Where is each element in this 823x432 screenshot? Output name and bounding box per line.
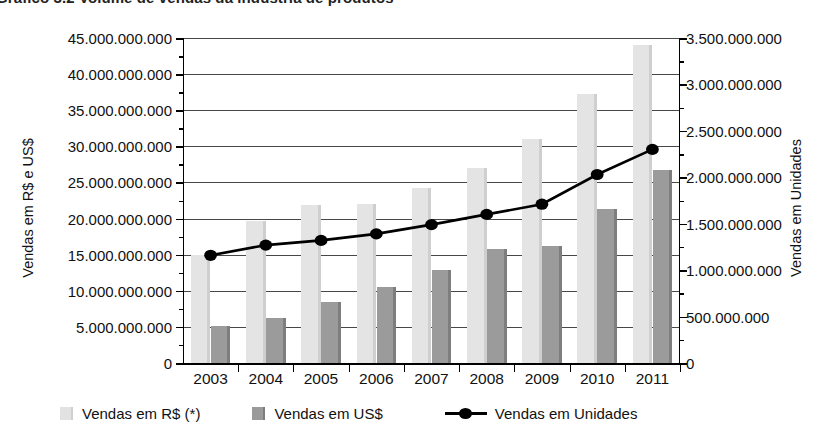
tick-mark (680, 84, 687, 86)
line-marker (591, 169, 604, 180)
left-tick-label: 10.000.000.000 (68, 283, 172, 298)
line-marker (536, 199, 549, 210)
tick-mark (176, 74, 183, 76)
tick-mark (176, 255, 183, 257)
tick-mark (680, 247, 684, 249)
category-label: 2005 (293, 370, 348, 388)
line-marker (315, 235, 328, 246)
tick-mark (680, 177, 687, 179)
chart-legend: Vendas em R$ (*)Vendas em US$Vendas em U… (60, 399, 760, 427)
right-tick-label: 3.500.000.000 (686, 31, 782, 46)
tick-mark (176, 327, 183, 329)
line-marker (646, 144, 659, 155)
tick-mark (680, 38, 687, 40)
tick-mark (680, 270, 687, 272)
left-tick-label: 0 (164, 356, 172, 371)
tick-mark (176, 146, 183, 148)
category-separator (680, 363, 681, 372)
legend-item[interactable]: Vendas em Unidades (445, 405, 638, 422)
right-tick-label: 500.000.000 (686, 309, 769, 324)
tick-mark (680, 154, 684, 156)
tick-mark (680, 340, 684, 342)
line-marker (259, 240, 272, 251)
category-label: 2009 (514, 370, 569, 388)
right-axis-tick-labels: 3.500.000.0003.000.000.0002.500.000.0002… (686, 0, 816, 432)
tick-mark (680, 224, 687, 226)
line-series-layer (183, 38, 680, 363)
left-tick-label: 5.000.000.000 (76, 319, 172, 334)
legend-label: Vendas em Unidades (495, 405, 638, 422)
x-axis-line (183, 363, 680, 365)
left-tick-label: 20.000.000.000 (68, 211, 172, 226)
right-tick-label: 2.000.000.000 (686, 170, 782, 185)
legend-line-marker-icon (445, 407, 487, 420)
tick-mark (680, 131, 687, 133)
tick-mark (680, 61, 684, 63)
tick-mark (680, 363, 687, 365)
category-label: 2004 (238, 370, 293, 388)
legend-label: Vendas em R$ (*) (82, 405, 200, 422)
right-tick-label: 1.000.000.000 (686, 263, 782, 278)
legend-swatch-icon (60, 407, 73, 420)
line-vendas-unidades (211, 149, 653, 255)
tick-mark (680, 201, 684, 203)
legend-line-dot (459, 408, 472, 419)
left-tick-label: 45.000.000.000 (68, 31, 172, 46)
left-tick-label: 40.000.000.000 (68, 67, 172, 82)
right-tick-label: 2.500.000.000 (686, 123, 782, 138)
tick-mark (176, 182, 183, 184)
right-tick-label: 1.500.000.000 (686, 216, 782, 231)
category-label: 2010 (570, 370, 625, 388)
line-marker (370, 228, 383, 239)
plot-area: 200320042005200620072008200920102011 (183, 38, 680, 363)
tick-mark (680, 317, 687, 319)
left-axis-tick-labels: 45.000.000.00040.000.000.00035.000.000.0… (0, 0, 172, 432)
tick-mark (176, 219, 183, 221)
legend-item[interactable]: Vendas em US$ (252, 405, 382, 422)
right-tick-label: 3.000.000.000 (686, 77, 782, 92)
legend-label: Vendas em US$ (274, 405, 382, 422)
left-tick-label: 15.000.000.000 (68, 247, 172, 262)
tick-mark (680, 293, 684, 295)
legend-swatch-icon (252, 407, 265, 420)
right-tick-label: 0 (686, 356, 694, 371)
category-label: 2011 (625, 370, 680, 388)
legend-item[interactable]: Vendas em R$ (*) (60, 405, 200, 422)
category-label: 2007 (404, 370, 459, 388)
tick-mark (176, 363, 183, 365)
category-label: 2008 (459, 370, 514, 388)
line-marker (425, 219, 438, 230)
tick-mark (680, 108, 684, 110)
tick-mark (176, 38, 183, 40)
tick-mark (176, 110, 183, 112)
left-tick-label: 25.000.000.000 (68, 175, 172, 190)
chart-container: Gráfico 3.2 Volume de vendas da indústri… (0, 0, 823, 432)
left-tick-label: 35.000.000.000 (68, 103, 172, 118)
left-tick-label: 30.000.000.000 (68, 139, 172, 154)
category-label: 2006 (349, 370, 404, 388)
line-marker (480, 209, 493, 220)
category-label: 2003 (183, 370, 238, 388)
line-marker (204, 250, 217, 261)
tick-mark (176, 291, 183, 293)
